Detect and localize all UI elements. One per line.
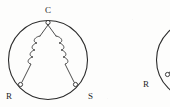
- stator-circle-right: [157, 21, 171, 100]
- terminal-label-r-right: R: [143, 79, 149, 89]
- coil-start-winding: [56, 36, 74, 82]
- lead-r-partial-right: [169, 62, 170, 73]
- terminal-node-c[interactable]: [46, 20, 50, 24]
- coil-run-winding: [22, 36, 40, 82]
- left-winding-diagram: C R S: [6, 5, 93, 101]
- terminal-label-c: C: [45, 5, 51, 15]
- winding-diagram-svg: C R S R: [0, 0, 170, 107]
- terminal-node-r[interactable]: [18, 82, 22, 86]
- lead-c-to-start-coil: [48, 25, 56, 36]
- diagram-canvas: C R S R: [0, 0, 170, 107]
- terminal-label-r: R: [6, 91, 12, 101]
- lead-c-to-run-coil: [40, 25, 48, 36]
- terminal-node-r-right[interactable]: [165, 72, 169, 76]
- right-winding-diagram-partial: R: [143, 21, 170, 100]
- stator-circle-left: [9, 21, 88, 100]
- terminal-node-s[interactable]: [73, 82, 77, 86]
- terminal-label-s: S: [88, 91, 93, 101]
